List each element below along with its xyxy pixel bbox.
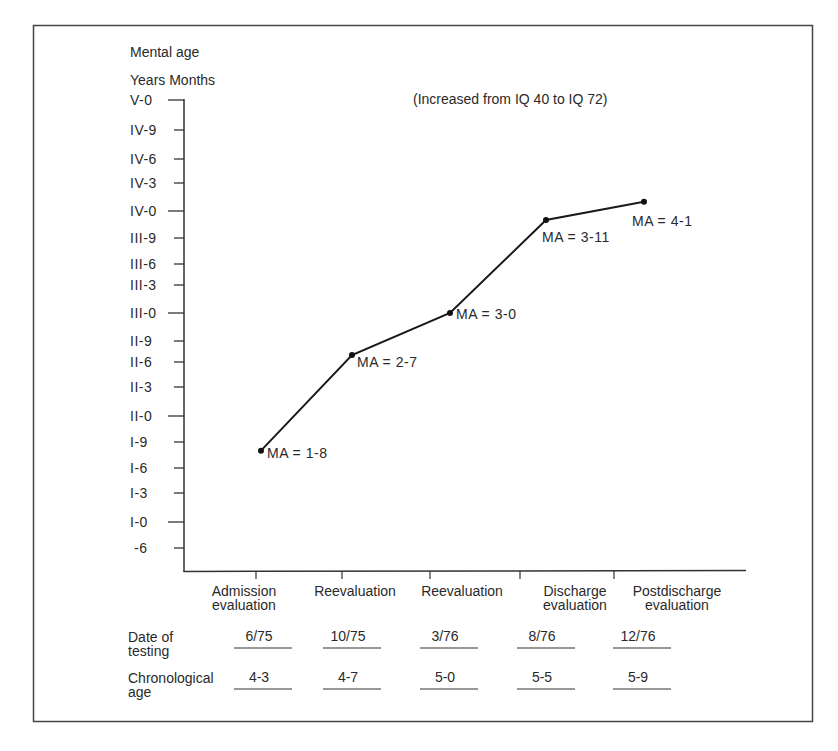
x-tick-label: evaluation xyxy=(645,597,709,613)
data-point xyxy=(641,199,647,205)
x-ticks: AdmissionevaluationReevaluationReevaluat… xyxy=(212,571,722,613)
table-row-label: age xyxy=(128,684,152,700)
data-label: MA = 2-7 xyxy=(357,354,417,370)
table-cell: 8/76 xyxy=(528,628,555,644)
data-label: MA = 3-11 xyxy=(542,229,610,245)
chart-subtitle: Years Months xyxy=(130,72,215,88)
data-point xyxy=(447,310,453,316)
table-cell: 10/75 xyxy=(330,628,365,644)
mental-age-chart: Mental age Years Months (Increased from … xyxy=(0,0,838,751)
y-tick-label: IV-6 xyxy=(130,151,157,167)
y-tick-label: I-3 xyxy=(130,485,148,501)
table-row-label: testing xyxy=(128,643,169,659)
y-tick-label: I-6 xyxy=(130,460,148,476)
y-tick-label: IV-3 xyxy=(130,175,157,191)
x-axis xyxy=(184,571,747,572)
data-label: MA = 4-1 xyxy=(632,213,692,229)
y-tick-label: V-0 xyxy=(130,92,153,108)
x-tick-label: evaluation xyxy=(543,597,607,613)
series-mental-age: MA = 1-8MA = 2-7MA = 3-0MA = 3-11MA = 4-… xyxy=(258,199,692,461)
y-tick-label: II-6 xyxy=(130,354,152,370)
y-tick-label: III-0 xyxy=(130,305,157,321)
data-label: MA = 3-0 xyxy=(456,306,516,322)
chart-title: Mental age xyxy=(130,44,199,60)
y-tick-label: III-6 xyxy=(130,256,157,272)
data-label: MA = 1-8 xyxy=(267,445,327,461)
chart-annotation: (Increased from IQ 40 to IQ 72) xyxy=(413,91,608,107)
table-cell: 6/75 xyxy=(245,628,272,644)
y-tick-label: I-9 xyxy=(130,434,148,450)
y-tick-label: II-0 xyxy=(130,408,152,424)
table-cell: 12/76 xyxy=(620,628,655,644)
table-cell: 5-0 xyxy=(435,669,455,685)
y-tick-label: -6 xyxy=(134,540,147,556)
x-tick-label: Reevaluation xyxy=(314,583,396,599)
data-point xyxy=(258,448,264,454)
y-ticks: V-0IV-9IV-6IV-3IV-0III-9III-6III-3III-0I… xyxy=(130,92,184,556)
table-cell: 5-5 xyxy=(532,669,552,685)
table-cell: 5-9 xyxy=(628,669,648,685)
data-point xyxy=(349,352,355,358)
table-cell: 3/76 xyxy=(431,628,458,644)
y-tick-label: IV-9 xyxy=(130,122,157,138)
x-tick-label: Reevaluation xyxy=(421,583,503,599)
y-tick-label: IV-0 xyxy=(130,203,157,219)
testing-table: Date oftesting6/7510/753/768/7612/76Chro… xyxy=(128,628,671,700)
table-cell: 4-7 xyxy=(338,669,358,685)
data-point xyxy=(543,217,549,223)
y-tick-label: II-3 xyxy=(130,379,152,395)
y-tick-label: I-0 xyxy=(130,514,148,530)
y-tick-label: II-9 xyxy=(130,333,152,349)
x-tick-label: evaluation xyxy=(212,597,276,613)
y-tick-label: III-9 xyxy=(130,230,157,246)
y-tick-label: III-3 xyxy=(130,277,157,293)
table-cell: 4-3 xyxy=(249,669,269,685)
